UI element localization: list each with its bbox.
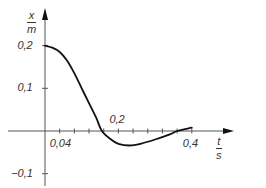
axes: [8, 8, 234, 186]
y-axis-arrow-icon: [42, 8, 48, 20]
y-tick-label: 0,1: [17, 82, 32, 93]
x-axis-label: t s: [216, 136, 222, 161]
x-tick-label: 0,2: [109, 114, 124, 125]
line-chart: [0, 0, 266, 188]
y-tick-label: 0,2: [17, 40, 32, 51]
x-axis-arrow-icon: [223, 128, 234, 134]
x-axis-label-quantity: t: [216, 136, 222, 149]
y-axis-label: x m: [27, 10, 36, 35]
x-tick-label: 0,04: [50, 138, 71, 149]
x-axis-label-unit: s: [216, 149, 222, 161]
x-tick-label: 0,4: [183, 138, 198, 149]
y-axis-label-unit: m: [27, 23, 36, 35]
axis-ticks: [42, 46, 192, 174]
y-tick-label: −0,1: [11, 168, 33, 179]
y-axis-label-quantity: x: [27, 10, 36, 23]
